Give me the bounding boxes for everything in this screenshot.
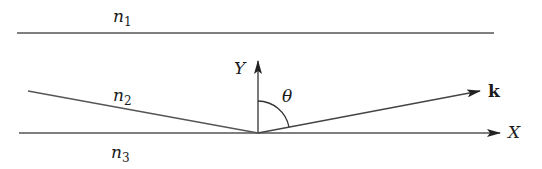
- label-n3: n3: [111, 144, 130, 164]
- label-n2: n2: [113, 87, 132, 107]
- diagram-canvas: n1 n2 n3 Y X θ k: [0, 0, 542, 169]
- label-n1: n1: [113, 8, 132, 28]
- angle-theta-label: θ: [282, 88, 292, 105]
- wave-vector-label: k: [488, 83, 500, 100]
- x-axis-label: X: [508, 124, 520, 141]
- diagram-lines: [0, 0, 542, 169]
- y-axis-label: Y: [234, 60, 245, 77]
- incident-ray: [28, 91, 258, 133]
